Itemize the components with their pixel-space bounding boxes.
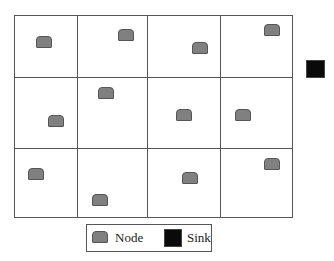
sensor-node xyxy=(92,194,108,206)
legend-node-label: Node xyxy=(115,230,143,246)
grid-row-line xyxy=(14,77,293,78)
sensor-node xyxy=(264,24,280,36)
grid-column-line xyxy=(77,15,78,218)
sensor-node xyxy=(176,109,192,121)
legend-sink-label: Sink xyxy=(187,230,211,246)
sensor-node xyxy=(118,29,134,41)
sensor-node xyxy=(36,36,52,48)
grid-row-line xyxy=(14,148,293,149)
node-swatch-icon xyxy=(92,231,108,243)
sensor-node xyxy=(264,158,280,170)
sink-swatch-icon xyxy=(164,229,182,247)
grid-column-line xyxy=(220,15,221,218)
sensor-node xyxy=(235,109,251,121)
grid-column-line xyxy=(147,15,148,218)
sink-node xyxy=(306,60,325,78)
sensor-node xyxy=(182,172,198,184)
legend: Node Sink xyxy=(86,224,212,252)
sensor-node xyxy=(48,115,64,127)
sensor-node xyxy=(28,168,44,180)
sensor-node xyxy=(192,42,208,54)
sensor-node xyxy=(98,87,114,99)
